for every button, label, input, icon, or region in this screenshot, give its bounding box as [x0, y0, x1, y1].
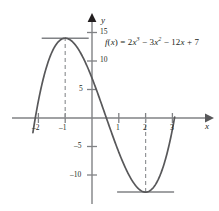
y-tick-label-minus-5: –5	[74, 142, 82, 150]
formula-term2-operator: −	[140, 37, 150, 47]
x-tick-label-1: 1	[116, 124, 120, 132]
x-tick-label-minus-2: –2	[32, 124, 40, 132]
y-tick-label-minus-10: –10	[70, 171, 81, 179]
formula-term4-operator: +	[185, 37, 195, 47]
formula-equals: =	[118, 37, 128, 47]
x-axis	[12, 114, 214, 123]
graph-figure: y x –2 –1 1 2 3 15 10 5 –5 –10 f(x) = 2x…	[0, 0, 219, 211]
formula-term3-operator: −	[161, 37, 171, 47]
cubic-function-plot	[0, 0, 219, 211]
formula-term4-constant: 7	[194, 37, 199, 47]
y-tick-label-5: 5	[79, 85, 83, 93]
x-tick-label-minus-1: –1	[59, 124, 67, 132]
y-axis-label: y	[101, 16, 105, 25]
x-tick-label-3: 3	[170, 124, 174, 132]
x-axis-label: x	[205, 122, 209, 131]
function-formula: f(x) = 2x3 − 3x2 − 12x + 7	[105, 36, 199, 47]
x-tick-label-2: 2	[143, 124, 147, 132]
y-tick-label-15: 15	[100, 28, 108, 36]
y-tick-label-10: 10	[100, 56, 108, 64]
